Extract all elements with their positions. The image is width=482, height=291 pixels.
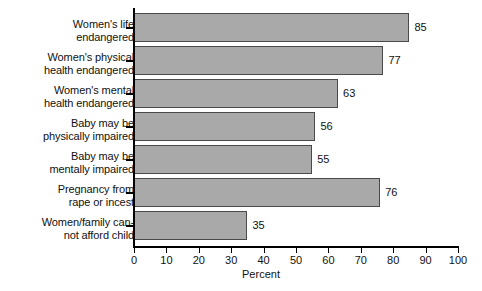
bar — [134, 79, 338, 108]
horizontal-bar-chart: Women's life endangered Women's physical… — [0, 0, 482, 291]
x-axis-tick — [199, 248, 200, 253]
bar-value-label: 85 — [414, 21, 426, 34]
category-label: Women/family can- not afford child — [0, 216, 134, 242]
category-label: Women's life endangered — [0, 18, 134, 44]
x-axis-tick — [458, 248, 459, 253]
bar — [134, 145, 312, 174]
x-axis-tick — [296, 248, 297, 253]
bar — [134, 13, 409, 42]
category-label: Baby may be mentally impaired — [0, 150, 134, 176]
category-label: Baby may be physically impaired — [0, 117, 134, 143]
x-axis-tick — [361, 248, 362, 253]
category-label: Women's physical health endangered — [0, 51, 134, 77]
x-axis-tick — [393, 248, 394, 253]
bar — [134, 178, 380, 207]
bar — [134, 112, 315, 141]
bar-value-label: 77 — [388, 54, 400, 67]
y-axis-line — [133, 8, 135, 248]
bar — [134, 46, 383, 75]
category-label: Women's mental health endangered — [0, 84, 134, 110]
x-axis-tick — [134, 248, 135, 253]
x-axis-tick — [328, 248, 329, 253]
x-axis-tick — [264, 248, 265, 253]
x-axis-title-text: Percent — [242, 268, 280, 280]
x-axis-tick — [166, 248, 167, 253]
bar-value-label: 76 — [385, 186, 397, 199]
bar-value-label: 35 — [252, 219, 264, 232]
bar-value-label: 63 — [343, 87, 355, 100]
x-axis-tick-label: 100 — [438, 254, 478, 267]
x-axis-tick — [426, 248, 427, 253]
bar — [134, 211, 247, 240]
bar-value-label: 56 — [320, 120, 332, 133]
bar-value-label: 55 — [317, 153, 329, 166]
category-label: Pregnancy from rape or incest — [0, 183, 134, 209]
x-axis-tick — [231, 248, 232, 253]
x-axis-title: Percent — [0, 268, 482, 280]
